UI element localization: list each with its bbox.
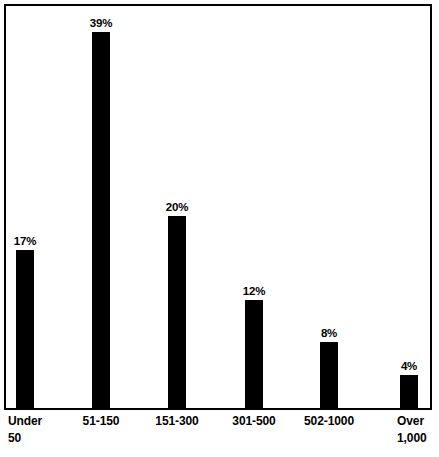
bar-rect[interactable] xyxy=(320,342,338,408)
bar-group-51-150[interactable]: 39% xyxy=(92,6,110,408)
axis-label-line-1: 301-500 xyxy=(232,413,275,430)
bar-value-label: 4% xyxy=(401,360,417,373)
axis-label-151-300: 151-300 xyxy=(155,413,198,430)
bar-rect[interactable] xyxy=(245,300,263,408)
bar-value-label: 17% xyxy=(14,235,36,248)
axis-label-line-1: 502-1000 xyxy=(304,413,354,430)
bar-group-151-300[interactable]: 20% xyxy=(168,6,186,408)
axis-label-301-500: 301-500 xyxy=(232,413,275,430)
bar-group-over-1000[interactable]: 4% xyxy=(400,6,418,408)
bar-rect[interactable] xyxy=(16,250,34,408)
bar-rect[interactable] xyxy=(400,375,418,408)
axis-label-51-150: 51-150 xyxy=(83,413,120,430)
bar-value-label: 12% xyxy=(243,285,265,298)
bar-value-label: 8% xyxy=(321,327,337,340)
bar-group-under-50[interactable]: 17% xyxy=(16,6,34,408)
category-axis: Under 50 51-150 151-300 301-500 502-1000… xyxy=(0,413,439,457)
bar-value-label: 39% xyxy=(90,17,112,30)
axis-label-502-1000: 502-1000 xyxy=(304,413,354,430)
bar-rect[interactable] xyxy=(92,32,110,408)
bar-group-502-1000[interactable]: 8% xyxy=(320,6,338,408)
axis-label-line-2: 50 xyxy=(8,430,42,447)
bars-layer: 17% 39% 20% 12% 8% 4% xyxy=(6,6,430,408)
axis-label-over-1000: Over 1,000 xyxy=(397,413,427,447)
axis-label-line-2: 1,000 xyxy=(397,430,427,447)
bar-chart: 17% 39% 20% 12% 8% 4% Under 50 xyxy=(0,0,439,457)
bar-rect[interactable] xyxy=(168,216,186,408)
axis-label-line-1: Under xyxy=(8,413,42,430)
axis-label-under-50: Under 50 xyxy=(8,413,42,447)
axis-label-line-1: 151-300 xyxy=(155,413,198,430)
bar-group-301-500[interactable]: 12% xyxy=(245,6,263,408)
axis-label-line-1: Over xyxy=(397,413,427,430)
bar-value-label: 20% xyxy=(166,201,188,214)
axis-label-line-1: 51-150 xyxy=(83,413,120,430)
